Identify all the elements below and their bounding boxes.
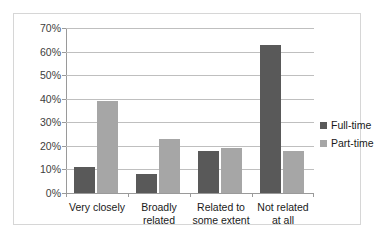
legend-item[interactable]: Full-time [320, 120, 374, 131]
bar-group [66, 28, 128, 193]
x-axis-labels: Very closelyBroadlyrelatedRelated tosome… [66, 201, 314, 235]
x-axis-category-line: Very closely [66, 201, 128, 214]
plot-area [66, 28, 314, 193]
x-axis-category-label: Related tosome extent [190, 201, 252, 227]
y-axis-tick-label: 10% [17, 164, 61, 174]
x-axis-category-line: Broadly [128, 201, 190, 214]
legend-item-label: Full-time [331, 120, 371, 131]
bar-part-time[interactable] [283, 151, 304, 193]
y-axis-labels: 70%60%50%40%30%20%10%0% [14, 28, 61, 193]
bar-group [252, 28, 314, 193]
legend-swatch-icon [320, 122, 327, 129]
bar-part-time[interactable] [159, 139, 180, 193]
legend-item[interactable]: Part-time [320, 138, 374, 149]
legend-swatch-icon [320, 140, 327, 147]
bar-group [190, 28, 252, 193]
y-axis-tick-label: 70% [17, 23, 61, 33]
legend-item-label: Part-time [331, 138, 374, 149]
bar-group [128, 28, 190, 193]
y-axis-tick-label: 40% [17, 94, 61, 104]
x-axis-category-line: Related to [190, 201, 252, 214]
x-axis-tickmarks [66, 193, 314, 198]
bar-part-time[interactable] [97, 101, 118, 193]
x-axis-category-line: Not related [252, 201, 314, 214]
chart-legend: Full-timePart-time [320, 120, 374, 156]
x-axis-category-line: at all [252, 214, 314, 227]
y-axis-tick-label: 30% [17, 117, 61, 127]
x-axis-tickmark [190, 193, 191, 197]
bar-part-time[interactable] [221, 148, 242, 193]
x-axis-category-line: some extent [190, 214, 252, 227]
x-axis-tickmark [252, 193, 253, 197]
x-axis-category-line: related [128, 214, 190, 227]
y-axis-tick-label: 20% [17, 141, 61, 151]
bar-full-time[interactable] [198, 151, 219, 193]
x-axis-category-label: Very closely [66, 201, 128, 214]
bar-full-time[interactable] [260, 45, 281, 194]
bar-full-time[interactable] [136, 174, 157, 193]
y-axis-tick-label: 0% [17, 188, 61, 198]
y-axis-tick-label: 60% [17, 47, 61, 57]
x-axis-category-label: Broadlyrelated [128, 201, 190, 227]
y-axis-tick-label: 50% [17, 70, 61, 80]
bar-full-time[interactable] [74, 167, 95, 193]
x-axis-tickmark [128, 193, 129, 197]
x-axis-tickmark [313, 193, 314, 197]
x-axis-tickmark [66, 193, 67, 197]
chart-frame: 70%60%50%40%30%20%10%0% Very closelyBroa… [13, 13, 361, 225]
x-axis-category-label: Not relatedat all [252, 201, 314, 227]
